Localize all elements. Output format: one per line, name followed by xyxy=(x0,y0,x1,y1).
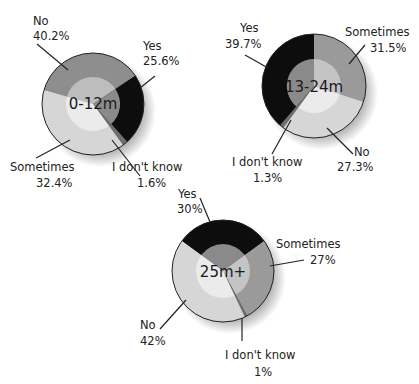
pie-chart-25m-plus: 25m+ Yes 30% Sometimes 27% No 42% I don'… xyxy=(140,187,341,379)
label-sometimes-name: Sometimes xyxy=(345,25,410,39)
label-yes-value: 25.6% xyxy=(143,54,180,68)
label-idk-value: 1.6% xyxy=(137,176,166,190)
label-yes-name: Yes xyxy=(142,39,162,53)
label-no-value: 27.3% xyxy=(337,160,374,174)
label-no-value: 42% xyxy=(140,334,166,348)
label-sometimes-name: Sometimes xyxy=(10,160,75,174)
label-sometimes-value: 27% xyxy=(310,253,336,267)
label-no-name: No xyxy=(140,318,156,332)
chart-title: 13-24m xyxy=(285,78,343,96)
label-sometimes-value: 32.4% xyxy=(36,176,73,190)
label-no-name: No xyxy=(33,14,49,28)
label-no-name: No xyxy=(354,145,370,159)
label-yes-value: 39.7% xyxy=(225,37,262,51)
label-idk-name: I don't know xyxy=(112,160,182,174)
label-yes-name: Yes xyxy=(239,21,259,35)
label-no-value: 40.2% xyxy=(33,29,70,43)
label-idk-name: I don't know xyxy=(225,348,295,362)
pie-chart-13-24m: 13-24m Yes 39.7% Sometimes 31.5% No 27.3… xyxy=(225,21,410,185)
label-yes-name: Yes xyxy=(177,187,197,201)
pie-charts: 0-12m No 40.2% Yes 25.6% Sometimes 32.4%… xyxy=(0,0,419,384)
chart-title: 25m+ xyxy=(200,263,246,281)
label-yes-value: 30% xyxy=(177,202,203,216)
pie-chart-0-12m: 0-12m No 40.2% Yes 25.6% Sometimes 32.4%… xyxy=(10,14,182,190)
label-sometimes-name: Sometimes xyxy=(276,237,341,251)
label-sometimes-value: 31.5% xyxy=(370,41,407,55)
label-idk-value: 1% xyxy=(254,365,272,379)
label-idk-name: I don't know xyxy=(232,155,302,169)
label-idk-value: 1.3% xyxy=(253,171,282,185)
chart-title: 0-12m xyxy=(69,95,118,113)
